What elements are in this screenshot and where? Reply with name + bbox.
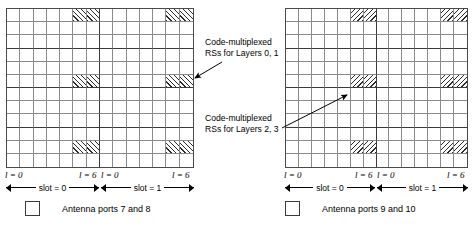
resource-element [60, 154, 73, 167]
resource-element [286, 114, 299, 127]
resource-element [364, 49, 377, 62]
resource-element [428, 22, 441, 35]
resource-element [402, 101, 415, 114]
resource-element [299, 141, 312, 154]
resource-element-dmrs [454, 9, 467, 22]
slot-span-right-slot0: slot = 0 [285, 182, 375, 193]
resource-element [415, 141, 428, 154]
legend-label-ports-9-10: Antenna ports 9 and 10 [322, 204, 416, 214]
resource-element [377, 75, 390, 88]
resource-element [338, 128, 351, 141]
resource-element [100, 88, 113, 101]
resource-element [454, 88, 467, 101]
resource-element [140, 101, 153, 114]
resource-element [20, 49, 33, 62]
resource-element [7, 141, 20, 154]
resource-element [180, 128, 193, 141]
resource-element [377, 128, 390, 141]
slot-span-right-slot1: slot = 1 [377, 182, 468, 193]
resource-element [127, 101, 140, 114]
resource-element [7, 101, 20, 114]
resource-element [47, 35, 60, 48]
resource-element [113, 114, 126, 127]
resource-element [325, 22, 338, 35]
resource-element [415, 22, 428, 35]
slot-span-right-slot0-label: slot = 0 [313, 183, 347, 193]
resource-element [20, 35, 33, 48]
resource-element [377, 114, 390, 127]
resource-element [113, 49, 126, 62]
resource-element-dmrs [73, 75, 86, 88]
axis-label-right-l0-start-slot1: l = 0 [377, 170, 395, 180]
resource-element [402, 49, 415, 62]
resource-element [153, 22, 166, 35]
resource-element [60, 88, 73, 101]
resource-element [127, 22, 140, 35]
resource-element [428, 141, 441, 154]
resource-element [389, 22, 402, 35]
resource-element [299, 101, 312, 114]
resource-element [415, 114, 428, 127]
resource-element [140, 22, 153, 35]
resource-element [87, 128, 100, 141]
resource-element [377, 9, 390, 22]
annotation-layers-0-1-line1: Code-multiplexed [205, 37, 279, 48]
resource-element [153, 49, 166, 62]
resource-element [338, 62, 351, 75]
slot-span-left-slot0-label: slot = 0 [36, 183, 70, 193]
resource-element [140, 114, 153, 127]
resource-element [60, 9, 73, 22]
resource-element [441, 88, 454, 101]
resource-element [351, 62, 364, 75]
resource-element [428, 75, 441, 88]
resource-element [364, 114, 377, 127]
resource-element [428, 101, 441, 114]
resource-element [7, 154, 20, 167]
resource-element [7, 114, 20, 127]
resource-element [7, 9, 20, 22]
resource-element [454, 154, 467, 167]
resource-element [100, 128, 113, 141]
resource-element [47, 75, 60, 88]
resource-element [415, 75, 428, 88]
resource-element [47, 128, 60, 141]
resource-element [286, 128, 299, 141]
resource-element [312, 88, 325, 101]
resource-element [338, 22, 351, 35]
resource-element [140, 154, 153, 167]
resource-element [377, 141, 390, 154]
resource-element [73, 35, 86, 48]
resource-element [325, 88, 338, 101]
resource-element [402, 88, 415, 101]
resource-element [20, 154, 33, 167]
resource-element [351, 22, 364, 35]
resource-element-dmrs [351, 9, 364, 22]
resource-element [389, 128, 402, 141]
resource-element [402, 114, 415, 127]
resource-element [454, 35, 467, 48]
resource-element [364, 101, 377, 114]
resource-element-dmrs [364, 9, 377, 22]
resource-element [402, 62, 415, 75]
resource-element [377, 101, 390, 114]
resource-element [299, 62, 312, 75]
resource-element [338, 49, 351, 62]
diagram-canvas: l = 0 l = 6 l = 0 l = 6 slot = 0 slot = … [0, 0, 473, 233]
resource-element [127, 154, 140, 167]
resource-element [60, 141, 73, 154]
resource-element [47, 49, 60, 62]
resource-element-dmrs [364, 75, 377, 88]
resource-element [312, 9, 325, 22]
resource-element [415, 35, 428, 48]
resource-element [325, 154, 338, 167]
resource-element [312, 35, 325, 48]
resource-element [377, 35, 390, 48]
resource-element [351, 88, 364, 101]
resource-element [299, 128, 312, 141]
resource-element [389, 154, 402, 167]
resource-element [60, 101, 73, 114]
resource-element-dmrs [166, 141, 179, 154]
resource-element [312, 101, 325, 114]
resource-element [312, 114, 325, 127]
resource-element [338, 88, 351, 101]
